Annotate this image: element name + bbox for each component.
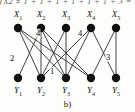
- node-label-x3: X3: [62, 9, 71, 21]
- edge-weight-label-1: 4: [35, 29, 40, 38]
- node-label-x1: X1: [14, 9, 23, 21]
- edge-weight-label-5: 3: [105, 53, 110, 62]
- graph-node-x5: [112, 24, 120, 32]
- graph-node-x3: [62, 24, 70, 32]
- node-label-x5: X5: [112, 9, 121, 21]
- graph-edge: [18, 28, 66, 78]
- graph-node-y5: [112, 74, 120, 82]
- graph-node-y2: [37, 74, 45, 82]
- node-label-x2: X2: [37, 9, 46, 21]
- graph-node-x4: [87, 24, 95, 32]
- graph-node-y1: [14, 74, 22, 82]
- edges-layer: [18, 28, 116, 78]
- graph-node-y4: [87, 74, 95, 82]
- node-label-y3: Y3: [62, 85, 70, 97]
- edge-weight-label-4: 1: [49, 67, 54, 76]
- node-label-y2: Y2: [37, 85, 45, 97]
- graph-node-y3: [62, 74, 70, 82]
- graph-node-x1: [14, 24, 22, 32]
- node-label-x4: X4: [87, 9, 96, 21]
- edge-weight-label-3: 2: [9, 54, 14, 63]
- node-label-y4: Y4: [87, 85, 95, 97]
- edge-weight-label-2: 4: [77, 29, 82, 38]
- bipartite-graph-figure: (X2 ≠ 1 + 1 + 1 + 1 + 1 + 1 + 3 = 1 X1X2…: [0, 0, 135, 112]
- node-label-y1: Y1: [14, 85, 22, 97]
- figure-caption: b): [0, 99, 135, 109]
- node-label-y5: Y5: [112, 85, 120, 97]
